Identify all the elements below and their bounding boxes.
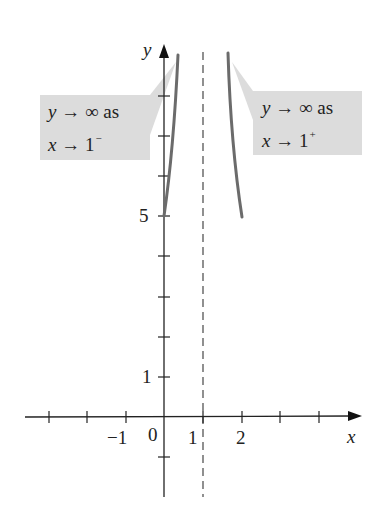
x-tick-label-2: 2 (236, 428, 246, 447)
y-tick-label-1: 1 (142, 367, 152, 386)
x-axis (25, 416, 352, 417)
left-callout: y → ∞ as x → 1− (40, 95, 150, 160)
left-callout-line2: x → 1− (48, 125, 150, 158)
left-callout-pointer (150, 62, 176, 135)
x-tick-label-neg1: −1 (107, 428, 127, 447)
x-axis-arrow-icon (348, 411, 362, 421)
right-callout-line1: y → ∞ as (262, 95, 362, 121)
y-axis-label: y (143, 40, 151, 59)
x-axis-label: x (347, 427, 355, 446)
left-callout-line1: y → ∞ as (48, 99, 150, 125)
x-tick-label-0: 0 (148, 425, 158, 444)
right-callout: y → ∞ as x → 1+ (253, 91, 362, 155)
right-callout-line2: x → 1+ (262, 121, 362, 154)
y-tick-label-5: 5 (139, 206, 149, 225)
right-callout-pointer (232, 62, 253, 120)
x-tick-label-1: 1 (188, 428, 198, 447)
y-axis-arrow-icon (159, 44, 169, 58)
